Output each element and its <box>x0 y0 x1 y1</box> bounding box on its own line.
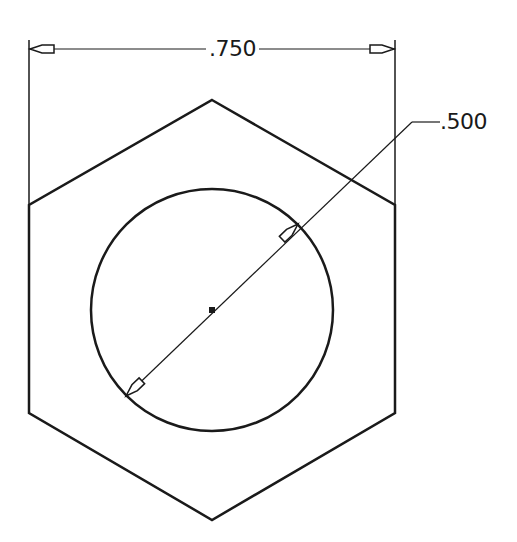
arrowhead-right-icon <box>370 45 394 53</box>
dimension-line-diameter <box>126 122 412 396</box>
width-dimension-label: .750 <box>206 38 259 60</box>
technical-drawing <box>0 0 517 542</box>
arrowhead-left-icon <box>30 45 54 53</box>
arrowhead-diameter-lower-icon <box>123 378 144 399</box>
diameter-dimension-label: .500 <box>440 111 487 133</box>
